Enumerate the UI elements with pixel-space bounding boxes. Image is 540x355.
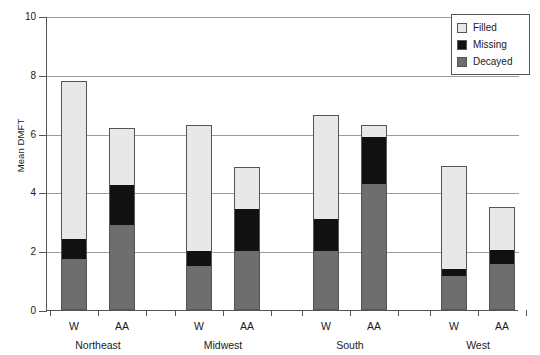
- legend-label: Filled: [473, 23, 497, 33]
- x-axis-tick: [50, 310, 51, 316]
- bar-segment-decayed[interactable]: [186, 266, 212, 310]
- x-axis-tick: [302, 310, 303, 316]
- bar[interactable]: [186, 125, 212, 310]
- x-axis-tick: [526, 310, 527, 316]
- x-axis-tick: [398, 310, 399, 316]
- x-axis-category-label: AA: [115, 321, 129, 332]
- bar[interactable]: [489, 207, 515, 310]
- x-axis-group-label: South: [336, 340, 363, 351]
- x-axis-tick: [478, 310, 479, 316]
- bar[interactable]: [361, 125, 387, 310]
- bar-segment-filled[interactable]: [61, 81, 87, 240]
- legend-item-decayed[interactable]: Decayed: [457, 53, 524, 70]
- y-axis-tick-label: 4: [30, 188, 36, 198]
- bar-segment-missing[interactable]: [61, 239, 87, 258]
- x-axis-tick: [430, 310, 431, 316]
- x-axis-category-label: AA: [367, 321, 381, 332]
- x-axis-category-label: AA: [240, 321, 254, 332]
- y-axis-tick: [39, 311, 47, 312]
- bar-segment-filled[interactable]: [441, 166, 467, 269]
- bar-segment-missing[interactable]: [234, 209, 260, 252]
- y-axis-tick: [39, 193, 47, 194]
- bar-segment-filled[interactable]: [109, 128, 135, 185]
- x-axis-tick: [175, 310, 176, 316]
- bar-segment-filled[interactable]: [489, 207, 515, 250]
- y-axis-label: Mean DMFT: [15, 96, 26, 196]
- gridline: [47, 17, 519, 18]
- bar-segment-decayed[interactable]: [109, 225, 135, 310]
- bar-segment-filled[interactable]: [313, 115, 339, 219]
- bar-segment-decayed[interactable]: [61, 259, 87, 310]
- bar[interactable]: [313, 115, 339, 311]
- x-axis-tick: [98, 310, 99, 316]
- chart-figure: Mean DMFT 0246810 WAAWAAWAAWAANortheastM…: [0, 0, 540, 355]
- bar-segment-missing[interactable]: [313, 219, 339, 251]
- legend-swatch-filled-icon: [457, 23, 467, 33]
- bar[interactable]: [109, 128, 135, 310]
- legend-item-filled[interactable]: Filled: [457, 19, 524, 36]
- y-axis-tick: [39, 135, 47, 136]
- x-axis-group-label: West: [466, 340, 490, 351]
- chart-legend: FilledMissingDecayed: [451, 14, 530, 75]
- x-axis-tick: [350, 310, 351, 316]
- x-axis-category-label: W: [69, 321, 79, 332]
- x-axis-tick: [146, 310, 147, 316]
- y-axis-tick-label: 6: [30, 130, 36, 140]
- legend-swatch-missing-icon: [457, 40, 467, 50]
- bar-segment-missing[interactable]: [441, 269, 467, 276]
- bar-segment-missing[interactable]: [489, 250, 515, 265]
- legend-label: Missing: [473, 40, 507, 50]
- bar-segment-decayed[interactable]: [313, 251, 339, 310]
- bar[interactable]: [61, 81, 87, 310]
- bar-segment-decayed[interactable]: [489, 264, 515, 310]
- x-axis-group-label: Midwest: [204, 340, 243, 351]
- bar-segment-decayed[interactable]: [441, 276, 467, 310]
- bar-segment-decayed[interactable]: [361, 184, 387, 310]
- y-axis-tick-label: 8: [30, 71, 36, 81]
- legend-swatch-decayed-icon: [457, 57, 467, 67]
- bar-segment-filled[interactable]: [361, 125, 387, 137]
- x-axis-group-label: Northeast: [75, 340, 121, 351]
- y-axis-tick-label: 10: [25, 12, 36, 22]
- bar[interactable]: [234, 167, 260, 310]
- gridline: [47, 76, 519, 77]
- x-axis-category-label: W: [321, 321, 331, 332]
- bar-segment-decayed[interactable]: [234, 251, 260, 310]
- bar-segment-missing[interactable]: [109, 185, 135, 225]
- bar-segment-filled[interactable]: [186, 125, 212, 251]
- y-axis-tick-label: 0: [30, 306, 36, 316]
- bar-segment-filled[interactable]: [234, 167, 260, 208]
- bar-segment-missing[interactable]: [361, 137, 387, 184]
- bar-segment-missing[interactable]: [186, 251, 212, 266]
- y-axis-tick: [39, 252, 47, 253]
- x-axis-tick: [271, 310, 272, 316]
- x-axis-category-label: W: [449, 321, 459, 332]
- y-axis-tick: [39, 76, 47, 77]
- y-axis-tick-label: 2: [30, 247, 36, 257]
- plot-area: 0246810 WAAWAAWAAWAANortheastMidwestSout…: [46, 17, 518, 311]
- bar[interactable]: [441, 166, 467, 310]
- x-axis-category-label: W: [194, 321, 204, 332]
- legend-label: Decayed: [473, 57, 512, 67]
- y-axis-tick: [39, 17, 47, 18]
- x-axis-tick: [223, 310, 224, 316]
- x-axis-category-label: AA: [495, 321, 509, 332]
- legend-item-missing[interactable]: Missing: [457, 36, 524, 53]
